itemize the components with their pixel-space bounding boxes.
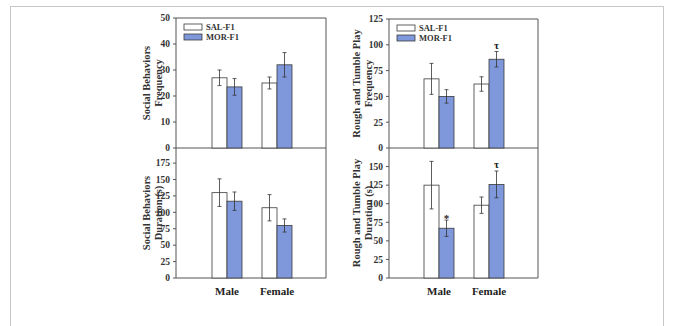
- y-tick-label: 25: [374, 255, 384, 265]
- y-tick-label: 125: [369, 14, 384, 24]
- bar-sal-f1-male: [212, 78, 227, 148]
- svg-text:Rough and Tumble Play: Rough and Tumble Play: [351, 29, 362, 138]
- svg-text:Social Behaviors: Social Behaviors: [141, 46, 152, 120]
- y-tick-label: 50: [161, 240, 171, 250]
- legend-label: SAL-F1: [206, 22, 235, 32]
- x-category-female: Female: [472, 285, 506, 297]
- bar-mor-f1-female: [489, 59, 504, 148]
- legend-label: SAL-F1: [419, 23, 448, 33]
- bar-mor-f1-female: [277, 225, 292, 278]
- y-tick-label: 50: [374, 236, 384, 246]
- y-tick-label: 75: [374, 218, 384, 228]
- bar-sal-f1-female: [262, 83, 277, 148]
- bar-sal-f1-female: [474, 205, 489, 278]
- legend-swatch-mor-f1: [397, 35, 415, 41]
- y-tick-label: 0: [165, 273, 170, 283]
- svg-text:Frequency: Frequency: [153, 58, 164, 106]
- significance-tau: τ: [494, 39, 499, 51]
- y-tick-label: 10: [161, 117, 171, 127]
- legend-swatch-sal-f1: [184, 24, 202, 30]
- svg-text:Rough and Tumble Play: Rough and Tumble Play: [351, 158, 362, 267]
- y-tick-label: 50: [374, 92, 384, 102]
- legend-swatch-mor-f1: [184, 34, 202, 40]
- y-tick-label: 50: [161, 13, 171, 23]
- y-tick-label: 100: [369, 40, 384, 50]
- significance-tau: τ: [494, 158, 499, 170]
- svg-text:Duration (s): Duration (s): [363, 185, 375, 240]
- bar-mor-f1-female: [489, 184, 504, 278]
- bar-sal-f1-female: [474, 84, 489, 148]
- legend-label: MOR-F1: [419, 33, 452, 43]
- svg-text:Duration (s): Duration (s): [153, 185, 165, 240]
- x-category-male: Male: [215, 285, 239, 297]
- x-category-female: Female: [260, 285, 294, 297]
- y-tick-label: 40: [161, 39, 171, 49]
- y-axis-title: Social BehaviorsDuration (s): [141, 176, 165, 250]
- bar-mor-f1-male: [439, 96, 454, 148]
- bar-mor-f1-male: [227, 87, 242, 148]
- y-tick-label: 25: [374, 118, 384, 128]
- svg-text:Frequency: Frequency: [363, 59, 374, 107]
- legend-label: MOR-F1: [206, 32, 239, 42]
- legend-swatch-sal-f1: [397, 25, 415, 31]
- y-tick-label: 150: [156, 175, 171, 185]
- bar-mor-f1-male: [227, 201, 242, 278]
- y-tick-label: 175: [156, 158, 171, 168]
- y-axis-title: Rough and Tumble PlayDuration (s): [351, 158, 375, 267]
- y-tick-label: 0: [378, 143, 383, 153]
- y-axis-title: Social BehaviorsFrequency: [141, 46, 164, 120]
- y-tick-label: 0: [378, 273, 383, 283]
- y-tick-label: 150: [369, 162, 384, 172]
- x-category-male: Male: [427, 285, 451, 297]
- y-tick-label: 75: [374, 66, 384, 76]
- significance-asterisk: *: [444, 212, 450, 224]
- svg-text:Social Behaviors: Social Behaviors: [141, 176, 152, 250]
- y-tick-label: 25: [161, 257, 171, 267]
- y-tick-label: 0: [165, 143, 170, 153]
